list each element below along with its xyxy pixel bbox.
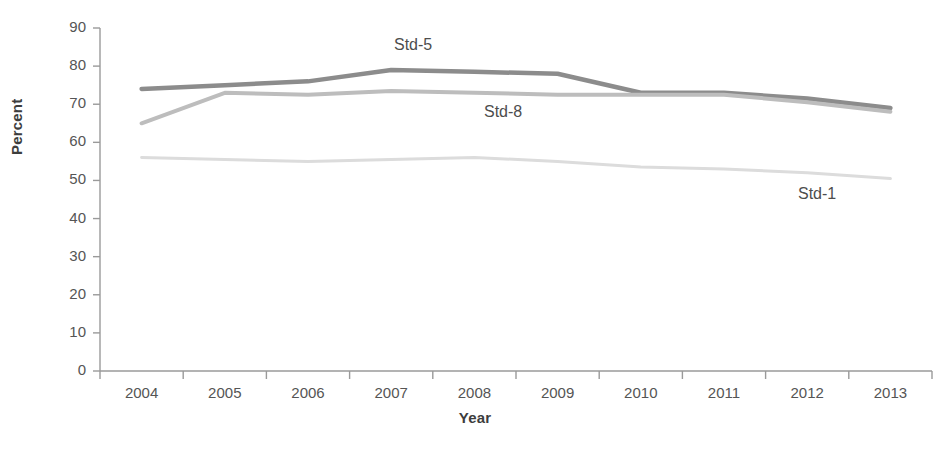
axes bbox=[100, 28, 932, 371]
series-line-std-5 bbox=[142, 70, 891, 108]
plot-area bbox=[0, 0, 950, 449]
tick-marks bbox=[93, 28, 932, 379]
series-line-std-1 bbox=[142, 158, 891, 179]
line-chart: Percent Year 0102030405060708090 2004200… bbox=[0, 0, 950, 449]
data-lines bbox=[142, 70, 891, 179]
